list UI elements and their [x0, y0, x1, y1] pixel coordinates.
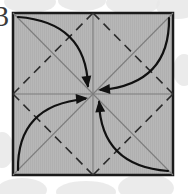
- step-number-label: 3: [0, 1, 9, 31]
- fold-diagram-canvas: [0, 0, 188, 194]
- origami-figure: 3: [0, 0, 188, 194]
- solid-crease-lines: [13, 13, 173, 175]
